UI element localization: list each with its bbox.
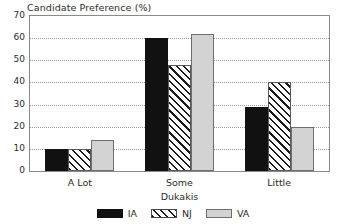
bar-nj-a-lot bbox=[68, 149, 91, 171]
legend-swatch-va bbox=[206, 209, 232, 218]
y-axis-tick-label: 50 bbox=[14, 54, 25, 64]
bars-layer bbox=[30, 16, 329, 171]
bar-va-a-lot bbox=[91, 140, 114, 171]
chart-title: Candidate Preference (%) bbox=[27, 2, 151, 13]
bar-ia-some bbox=[145, 38, 168, 171]
y-axis-tick-label: 60 bbox=[14, 32, 25, 42]
y-axis-tick-label: 30 bbox=[14, 99, 25, 109]
bar-va-some bbox=[191, 34, 214, 171]
x-axis-tick-label: Little bbox=[267, 177, 291, 188]
legend-swatch-nj bbox=[151, 209, 177, 218]
y-axis-tick-label: 0 bbox=[19, 165, 25, 175]
legend-item-nj: NJ bbox=[151, 208, 192, 219]
chart-screenshot: Candidate Preference (%) 010203040506070… bbox=[0, 0, 346, 224]
y-axis-tick-label: 10 bbox=[14, 143, 25, 153]
bar-ia-a-lot bbox=[45, 149, 68, 171]
bar-va-little bbox=[291, 127, 314, 171]
y-axis-tick-label: 40 bbox=[14, 76, 25, 86]
legend-label-nj: NJ bbox=[182, 208, 192, 219]
x-axis-label: Dukakis bbox=[161, 191, 199, 202]
y-axis-tick-label: 20 bbox=[14, 121, 25, 131]
x-axis-tick-label: A Lot bbox=[68, 177, 92, 188]
chart-legend: IANJVA bbox=[0, 208, 346, 219]
legend-item-ia: IA bbox=[97, 208, 137, 219]
legend-swatch-ia bbox=[97, 209, 123, 218]
bar-ia-little bbox=[245, 107, 268, 171]
legend-item-va: VA bbox=[206, 208, 249, 219]
x-axis-tick-label: Some bbox=[166, 177, 193, 188]
legend-label-ia: IA bbox=[128, 208, 137, 219]
legend-label-va: VA bbox=[237, 208, 249, 219]
y-axis-tick-label: 70 bbox=[14, 10, 25, 20]
bar-nj-little bbox=[268, 82, 291, 171]
bar-nj-some bbox=[168, 65, 191, 171]
